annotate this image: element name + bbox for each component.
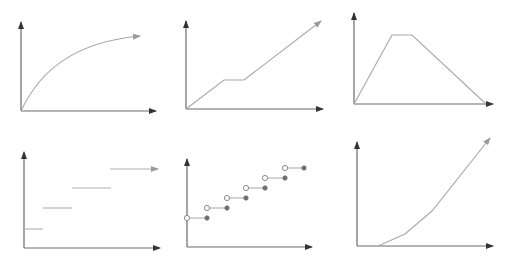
open-dot-icon bbox=[243, 185, 248, 190]
data-line bbox=[186, 21, 321, 109]
filled-dot-icon bbox=[263, 186, 267, 190]
filled-dot-icon bbox=[225, 206, 229, 210]
open-dot-icon bbox=[184, 215, 189, 220]
open-dot-icon bbox=[224, 195, 229, 200]
diagram-canvas bbox=[0, 0, 515, 262]
panel-linear-with-plateau bbox=[186, 21, 323, 109]
panel-step-function bbox=[24, 152, 160, 248]
filled-dot-icon bbox=[302, 166, 306, 170]
open-dot-icon bbox=[204, 205, 209, 210]
panel-concave-growth bbox=[21, 22, 156, 111]
panel-trapezoid bbox=[354, 13, 493, 104]
filled-dot-icon bbox=[283, 176, 287, 180]
data-curve bbox=[21, 36, 140, 111]
open-dot-icon bbox=[282, 165, 287, 170]
filled-dot-icon bbox=[244, 196, 248, 200]
data-line bbox=[378, 138, 490, 246]
open-dot-icon bbox=[262, 175, 267, 180]
panel-floor-step-dots bbox=[184, 159, 312, 247]
filled-dot-icon bbox=[205, 216, 209, 220]
panel-convex-growth bbox=[357, 138, 493, 246]
data-line bbox=[354, 35, 486, 104]
